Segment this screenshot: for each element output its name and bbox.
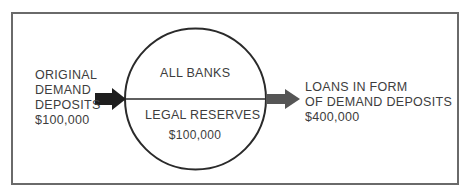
circle-bottom-label: LEGAL RESERVES $100,000 [145, 108, 245, 143]
output-loans-label: LOANS IN FORM OF DEMAND DEPOSITS $400,00… [305, 80, 452, 125]
input-line-2: DEMAND [35, 83, 101, 98]
output-amount: $400,000 [305, 110, 452, 125]
output-line-2: OF DEMAND DEPOSITS [305, 95, 452, 110]
output-line-1: LOANS IN FORM [305, 80, 452, 95]
circle-top-label: ALL BANKS [160, 66, 230, 81]
input-line-1: ORIGINAL [35, 68, 101, 83]
output-arrow-icon [266, 89, 300, 109]
legal-reserves-label: LEGAL RESERVES [145, 108, 260, 122]
input-amount: $100,000 [35, 113, 101, 128]
legal-reserves-amount: $100,000 [145, 128, 245, 143]
input-line-3: DEPOSITS [35, 98, 101, 113]
input-deposits-label: ORIGINAL DEMAND DEPOSITS $100,000 [35, 68, 101, 128]
